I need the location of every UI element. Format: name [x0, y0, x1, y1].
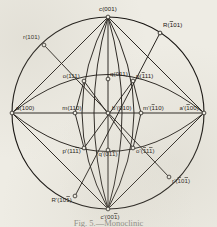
pole-marker-p-prime[interactable]	[82, 146, 86, 150]
pole-label-r-prime: r'(101)	[172, 177, 190, 184]
stereographic-projection-figure: c(001)c'(001)a(100)a'(100)b'(010)m(110)m…	[0, 0, 217, 227]
pole-label-p-prime: p'(111)	[62, 147, 81, 154]
chord-c-aprime	[108, 17, 204, 113]
pole-label-o: o(111)	[63, 72, 80, 79]
pole-marker-o-prime[interactable]	[131, 146, 135, 150]
pole-label-r: r(101)	[23, 33, 40, 40]
pole-marker-r-prime[interactable]	[167, 175, 171, 179]
chord-c-a	[12, 17, 108, 113]
pole-marker-a[interactable]	[10, 111, 14, 115]
pole-marker-c[interactable]	[106, 15, 110, 19]
pole-label-m-prime: m'(110)	[143, 104, 164, 111]
pole-label-R: R(101)	[163, 21, 182, 28]
pole-marker-o[interactable]	[82, 79, 86, 83]
pole-label-c: c(001)	[99, 5, 117, 12]
pole-marker-m[interactable]	[73, 111, 77, 115]
pole-label-q: q(011)	[110, 70, 128, 77]
pole-label-m: m(110)	[62, 104, 82, 111]
pole-marker-R[interactable]	[158, 31, 162, 35]
pole-label-b-prime: b'(010)	[112, 104, 132, 111]
pole-marker-q[interactable]	[106, 77, 110, 81]
pole-marker-a-prime[interactable]	[202, 111, 206, 115]
pole-marker-p[interactable]	[131, 79, 135, 83]
pole-marker-m-prime[interactable]	[139, 111, 143, 115]
pole-marker-b-prime[interactable]	[106, 111, 110, 115]
pole-label-o-prime: o'(111)	[136, 147, 155, 154]
figure-caption: Fig. 5.—Monoclinic	[0, 218, 217, 227]
projection-svg: c(001)c'(001)a(100)a'(100)b'(010)m(110)m…	[0, 0, 217, 227]
pole-label-a: a(100)	[16, 104, 34, 111]
pole-label-a-prime: a'(100)	[179, 104, 199, 111]
pole-marker-R-prime[interactable]	[73, 194, 77, 198]
pole-marker-c-prime[interactable]	[106, 207, 110, 211]
pole-marker-r[interactable]	[42, 43, 46, 47]
pole-label-p: p(111)	[136, 72, 153, 79]
pole-label-R-prime: R'(101)	[51, 196, 72, 203]
pole-label-q-prime: q'(011)	[98, 150, 117, 157]
